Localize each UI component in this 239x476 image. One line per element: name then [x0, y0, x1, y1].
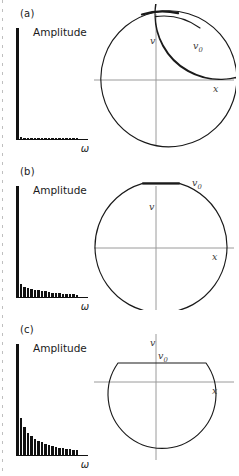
- figure-panel-a: (a) Amplitude ω v v0 x: [0, 2, 239, 154]
- harmonic-spectrum-a: Amplitude ω: [16, 28, 88, 140]
- spectrum-bar: [23, 427, 25, 455]
- v0-label: v0: [158, 350, 168, 364]
- phase-portrait-c: v v0 x: [92, 320, 236, 468]
- spectrum-bar: [55, 447, 57, 455]
- spectrum-bar: [20, 418, 22, 455]
- harmonic-spectrum-c: Amplitude ω: [16, 344, 88, 456]
- clipped-orbit-trajectory: [108, 363, 216, 448]
- omega-axis-label: ω: [81, 459, 89, 470]
- y-axis-line: [16, 344, 17, 456]
- spectrum-bar: [34, 290, 36, 297]
- spectrum-bar: [48, 445, 50, 455]
- y-axis-line: [16, 186, 17, 298]
- spectrum-bar: [44, 444, 46, 455]
- harmonic-spectrum-b: Amplitude ω: [16, 186, 88, 298]
- panel-letter-b: (b): [20, 166, 35, 177]
- v-axis-label: v: [150, 35, 156, 46]
- v0-label: v0: [193, 40, 203, 54]
- spectrum-bar: [30, 289, 32, 297]
- v-axis-label: v: [149, 201, 155, 212]
- spectrum-bars-b: [16, 186, 88, 297]
- spectrum-bar: [27, 433, 29, 455]
- spectrum-bars-c: [16, 344, 88, 455]
- omega-axis-label: ω: [81, 301, 89, 312]
- x-axis-label: x: [212, 385, 218, 396]
- spectrum-bar: [51, 446, 53, 455]
- panel-letter-a: (a): [20, 8, 35, 19]
- v0-label: v0: [192, 177, 202, 191]
- x-axis-line: [16, 139, 88, 140]
- closed-orbit-trajectory: [95, 184, 227, 310]
- spectrum-bar: [20, 284, 22, 297]
- v-axis-label: v: [150, 337, 156, 348]
- spectrum-bars-a: [16, 28, 88, 139]
- spectrum-bar: [30, 436, 32, 455]
- phase-portrait-a: v v0 x: [92, 4, 236, 152]
- figure-panel-c: (c) Amplitude ω v v0 x: [0, 318, 239, 470]
- spectrum-bar: [41, 442, 43, 455]
- figure-panel-b: (b) Amplitude ω v v0 x: [0, 160, 239, 312]
- spectrum-bar: [34, 439, 36, 455]
- phase-portrait-b: v v0 x: [92, 162, 236, 310]
- x-axis-line: [16, 297, 88, 298]
- x-axis-line: [16, 455, 88, 456]
- spiral-trajectory-outer: [101, 4, 236, 147]
- x-axis-label: x: [213, 83, 219, 94]
- y-axis-line: [16, 28, 17, 140]
- omega-axis-label: ω: [81, 143, 89, 154]
- spectrum-bar: [37, 441, 39, 455]
- panel-letter-c: (c): [20, 324, 34, 335]
- x-axis-label: x: [212, 251, 218, 262]
- spectrum-bar: [58, 448, 60, 455]
- spectrum-bar: [27, 288, 29, 297]
- spiral-start-arc: [142, 11, 178, 14]
- spectrum-bar: [23, 287, 25, 297]
